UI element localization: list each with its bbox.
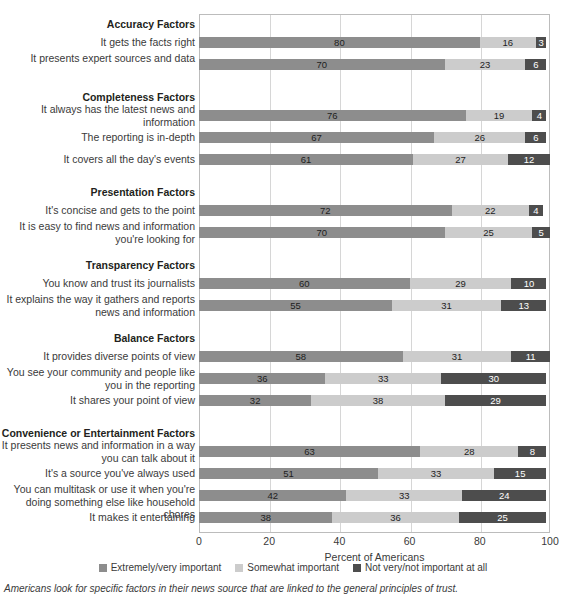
bar-segment-3[interactable]: 5: [532, 227, 550, 238]
bar-value-label: 42: [199, 490, 346, 501]
x-tick-60: 60: [404, 535, 416, 547]
bar-segment-2[interactable]: 27: [413, 154, 508, 165]
legend-item-2[interactable]: Somewhat important: [235, 562, 339, 573]
chart-row: You can multitask or use it when you're …: [0, 485, 586, 507]
bar-segment-2[interactable]: 28: [420, 446, 518, 457]
bar-segment-1[interactable]: 55: [199, 300, 392, 311]
bar-segment-3[interactable]: 8: [518, 446, 546, 457]
bar-segment-2[interactable]: 19: [466, 110, 533, 121]
bar-value-label: 31: [392, 300, 501, 311]
legend-item-3[interactable]: Not very/not important at all: [353, 562, 487, 573]
bar-segment-3[interactable]: 25: [459, 512, 547, 523]
bar-value-label: 38: [199, 512, 332, 523]
bar-segment-2[interactable]: 23: [445, 59, 526, 70]
bar-value-label: 29: [445, 395, 547, 406]
chart-row: It shares your point of view323829: [0, 390, 586, 412]
bar-value-label: 25: [459, 512, 547, 523]
bar-segment-2[interactable]: 25: [445, 227, 533, 238]
bar-track: 423324: [199, 490, 550, 501]
row-label: It is easy to find news and information …: [0, 220, 195, 245]
bar-segment-1[interactable]: 51: [199, 468, 378, 479]
chart-row: It covers all the day's events612712: [0, 149, 586, 171]
bar-segment-3[interactable]: 30: [441, 373, 546, 384]
bar-segment-3[interactable]: 4: [529, 205, 543, 216]
row-label: It shares your point of view: [0, 394, 195, 407]
bar-segment-1[interactable]: 42: [199, 490, 346, 501]
bar-segment-2[interactable]: 36: [332, 512, 458, 523]
bar-value-label: 29: [410, 278, 512, 289]
bar-segment-1[interactable]: 72: [199, 205, 452, 216]
bar-segment-1[interactable]: 60: [199, 278, 410, 289]
chart-row: It provides diverse points of view583111: [0, 346, 586, 368]
bar-segment-2[interactable]: 31: [392, 300, 501, 311]
bar-value-label: 27: [413, 154, 508, 165]
bar-segment-2[interactable]: 33: [346, 490, 462, 501]
chart-row: It's concise and gets to the point72224: [0, 200, 586, 222]
bar-segment-3[interactable]: 10: [511, 278, 546, 289]
legend-label: Extremely/very important: [111, 562, 222, 573]
bar-segment-2[interactable]: 22: [452, 205, 529, 216]
bar-track: 602910: [199, 278, 550, 289]
bar-track: 67266: [199, 132, 550, 143]
bar-value-label: 4: [532, 110, 546, 121]
bar-segment-3[interactable]: 6: [525, 59, 546, 70]
bar-track: 72224: [199, 205, 550, 216]
bar-value-label: 12: [508, 154, 550, 165]
bar-segment-3[interactable]: 13: [501, 300, 547, 311]
chart-container: Accuracy FactorsIt gets the facts right8…: [0, 0, 586, 600]
bar-segment-1[interactable]: 36: [199, 373, 325, 384]
bar-value-label: 24: [462, 490, 546, 501]
bar-segment-3[interactable]: 4: [532, 110, 546, 121]
bar-segment-2[interactable]: 16: [480, 37, 536, 48]
bar-segment-1[interactable]: 70: [199, 59, 445, 70]
chart-row: It always has the latest news and inform…: [0, 105, 586, 127]
bar-segment-1[interactable]: 32: [199, 395, 311, 406]
bar-track: 70255: [199, 227, 550, 238]
bar-segment-1[interactable]: 61: [199, 154, 413, 165]
bar-segment-1[interactable]: 80: [199, 37, 480, 48]
bar-segment-3[interactable]: 11: [511, 351, 550, 362]
chart-row: It's a source you've always used513315: [0, 463, 586, 485]
bar-value-label: 36: [332, 512, 458, 523]
bar-segment-2[interactable]: 31: [403, 351, 512, 362]
cropped-top-caption: [0, 0, 586, 4]
row-label: You know and trust its journalists: [0, 277, 195, 290]
legend-item-1[interactable]: Extremely/very important: [99, 562, 222, 573]
group-header-label: Presentation Factors: [0, 186, 195, 198]
bar-segment-1[interactable]: 38: [199, 512, 332, 523]
bar-segment-3[interactable]: 24: [462, 490, 546, 501]
bar-segment-1[interactable]: 76: [199, 110, 466, 121]
bar-segment-3[interactable]: 3: [536, 37, 547, 48]
bar-track: 76194: [199, 110, 550, 121]
bar-segment-2[interactable]: 38: [311, 395, 444, 406]
bar-segment-1[interactable]: 58: [199, 351, 403, 362]
bar-value-label: 38: [311, 395, 444, 406]
bar-value-label: 80: [199, 37, 480, 48]
bar-segment-3[interactable]: 12: [508, 154, 550, 165]
bar-segment-2[interactable]: 26: [434, 132, 525, 143]
legend-swatch-icon: [99, 564, 107, 572]
bar-segment-3[interactable]: 15: [494, 468, 547, 479]
chart-row: It presents news and information in a wa…: [0, 441, 586, 463]
row-label: It provides diverse points of view: [0, 350, 195, 363]
bar-segment-2[interactable]: 33: [378, 468, 494, 479]
row-label: The reporting is in-depth: [0, 131, 195, 144]
chart-rows: Accuracy FactorsIt gets the facts right8…: [0, 14, 586, 533]
bar-segment-3[interactable]: 6: [525, 132, 546, 143]
bar-value-label: 16: [480, 37, 536, 48]
x-tick-20: 20: [263, 535, 275, 547]
bar-segment-1[interactable]: 70: [199, 227, 445, 238]
bar-value-label: 36: [199, 373, 325, 384]
x-tick-0: 0: [196, 535, 202, 547]
bar-segment-1[interactable]: 67: [199, 132, 434, 143]
bar-segment-1[interactable]: 63: [199, 446, 420, 457]
bar-value-label: 70: [199, 59, 445, 70]
bar-track: 383625: [199, 512, 550, 523]
bar-segment-2[interactable]: 29: [410, 278, 512, 289]
x-tick-100: 100: [541, 535, 559, 547]
bar-segment-3[interactable]: 29: [445, 395, 547, 406]
row-label: It presents news and information in a wa…: [0, 439, 195, 464]
bar-segment-2[interactable]: 33: [325, 373, 441, 384]
row-label: It's concise and gets to the point: [0, 204, 195, 217]
bar-value-label: 32: [199, 395, 311, 406]
